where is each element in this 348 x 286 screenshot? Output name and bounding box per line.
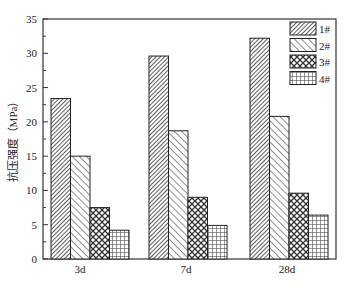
bar-7d-3 — [188, 197, 208, 259]
legend-swatch-4 — [290, 72, 316, 85]
bar-7d-1 — [149, 56, 169, 259]
bar-3d-4 — [110, 230, 130, 259]
bar-chart: 05101520253035抗压强度（MPa）3d7d28d 1#2#3#4# — [0, 0, 348, 286]
bar-7d-4 — [208, 225, 228, 259]
bar-7d-2 — [169, 131, 189, 259]
bars — [51, 38, 328, 259]
y-tick-label: 30 — [26, 47, 38, 59]
y-tick-label: 0 — [32, 253, 38, 265]
y-tick-label: 10 — [26, 184, 38, 196]
x-category-label: 7d — [181, 263, 193, 275]
legend-swatch-2 — [290, 39, 316, 52]
y-tick-label: 5 — [32, 219, 38, 231]
y-axis-label: 抗压强度（MPa） — [6, 96, 19, 183]
legend-swatch-1 — [290, 22, 316, 35]
bar-3d-2 — [71, 156, 91, 259]
legend-label: 2# — [319, 40, 331, 52]
legend: 1#2#3#4# — [290, 22, 331, 85]
y-tick-label: 35 — [26, 13, 38, 25]
bar-28d-3 — [289, 193, 309, 259]
bar-28d-2 — [270, 116, 290, 259]
legend-label: 4# — [319, 73, 331, 85]
legend-swatch-3 — [290, 55, 316, 68]
legend-label: 3# — [319, 56, 331, 68]
bar-3d-3 — [90, 208, 110, 259]
bar-28d-4 — [309, 215, 329, 259]
y-tick-label: 20 — [26, 116, 38, 128]
y-tick-label: 15 — [26, 150, 38, 162]
bar-28d-1 — [250, 38, 270, 259]
x-category-label: 28d — [279, 263, 296, 275]
legend-label: 1# — [319, 23, 331, 35]
bar-3d-1 — [51, 99, 71, 259]
y-tick-label: 25 — [26, 82, 38, 94]
x-category-label: 3d — [75, 263, 87, 275]
